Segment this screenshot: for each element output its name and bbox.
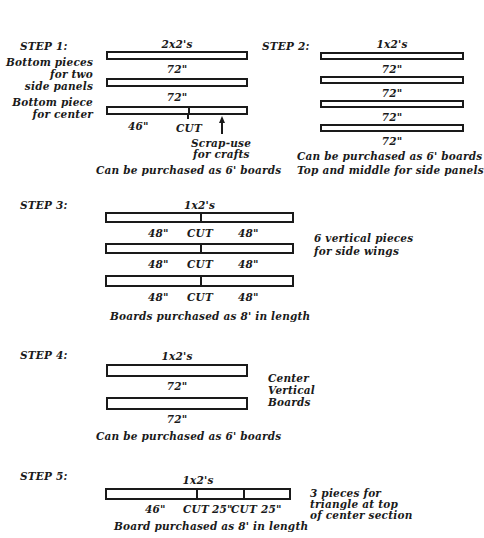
step-3-side-label-line-2: for side wings: [314, 245, 399, 257]
step-2-lumber: 1x2's: [320, 38, 464, 50]
step-3-side-label-line-1: 6 vertical pieces: [314, 232, 413, 244]
step-5-lumber: 1x2's: [105, 474, 291, 486]
step-1-scrap-note-line-2: for crafts: [193, 148, 250, 160]
step-4-side-label-line-2: Vertical: [268, 384, 315, 396]
arrow-shaft: [221, 122, 223, 134]
step-1-board-3: [106, 106, 248, 115]
step-1-board-3-cut: CUT: [176, 122, 202, 134]
step-1-board-1: [106, 51, 248, 60]
step-2-board-3-length: 72": [320, 111, 464, 123]
step-3-board-2: [105, 243, 294, 254]
cut-line-1: [196, 488, 198, 500]
step-1-center-label-line-2: for center: [0, 108, 93, 120]
step-2-board-2: [320, 76, 464, 84]
step-5-note: Board purchased as 8' in length: [114, 520, 308, 532]
step-1-side-label-line-1: Bottom pieces: [0, 56, 93, 68]
step-5-piece-3: 25": [261, 503, 282, 515]
step-5-piece-1: 46": [145, 503, 166, 515]
step-2-board-1-length: 72": [320, 63, 464, 75]
cut-line-2: [243, 488, 245, 500]
step-1-title: STEP 1:: [20, 40, 68, 52]
step-3-board-3-cut: CUT: [187, 291, 213, 303]
cut-mark: [187, 113, 189, 119]
step-1-lumber: 2x2's: [106, 38, 248, 50]
step-4-note: Can be purchased as 6' boards: [96, 430, 281, 442]
step-2-note-2: Top and middle for side panels: [297, 164, 484, 176]
step-1-center-label-line-1: Bottom piece: [0, 96, 93, 108]
step-3-board-1-cut: CUT: [187, 227, 213, 239]
step-1-note: Can be purchased as 6' boards: [96, 164, 281, 176]
step-2-board-4-length: 72": [320, 135, 464, 147]
step-3-title: STEP 3:: [20, 199, 68, 211]
step-5-title: STEP 5:: [20, 470, 68, 482]
step-4-lumber: 1x2's: [106, 350, 248, 362]
step-3-board-3-right: 48": [238, 291, 259, 303]
step-3-board-1-left: 48": [148, 227, 169, 239]
step-1-board-2: [106, 78, 248, 87]
step-3-board-2-cut: CUT: [187, 258, 213, 270]
step-4-board-2-length: 72": [106, 413, 248, 425]
step-2-board-4: [320, 124, 464, 132]
step-2-board-1: [320, 52, 464, 60]
step-2-title: STEP 2:: [262, 40, 310, 52]
step-4-board-1-length: 72": [106, 380, 248, 392]
step-2-board-2-length: 72": [320, 87, 464, 99]
step-3-board-2-left: 48": [148, 258, 169, 270]
step-5-side-label-line-3: of center section: [310, 509, 412, 521]
step-5-cut-1: CUT: [183, 503, 209, 515]
step-4-side-label-line-1: Center: [268, 372, 309, 384]
step-1-board-3-piece: 46": [128, 120, 149, 132]
cut-line: [200, 212, 202, 223]
step-1-board-2-length: 72": [106, 91, 248, 103]
step-5-piece-2: 25": [212, 503, 233, 515]
step-1-board-1-length: 72": [106, 63, 248, 75]
cut-line: [200, 243, 202, 254]
step-1-side-label-line-2: for two: [0, 68, 93, 80]
step-3-note: Boards purchased as 8' in length: [110, 310, 310, 322]
step-3-lumber: 1x2's: [105, 199, 294, 211]
step-4-title: STEP 4:: [20, 349, 68, 361]
step-5-cut-2: CUT: [231, 503, 257, 515]
step-2-board-3: [320, 100, 464, 108]
step-3-board-2-right: 48": [238, 258, 259, 270]
step-4-board-1: [106, 364, 248, 377]
step-3-board-1: [105, 212, 294, 223]
step-2-note-1: Can be purchased as 6' boards: [297, 150, 482, 162]
step-5-board: [105, 488, 291, 500]
step-3-board-3: [105, 275, 294, 287]
cut-line: [200, 275, 202, 287]
step-3-board-1-right: 48": [238, 227, 259, 239]
step-4-board-2: [106, 397, 248, 410]
step-4-side-label-line-3: Boards: [268, 396, 311, 408]
step-3-board-3-left: 48": [148, 291, 169, 303]
step-1-side-label-line-3: side panels: [0, 80, 93, 92]
